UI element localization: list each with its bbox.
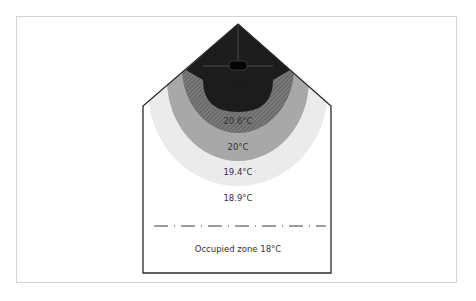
occupied-zone-label: Occupied zone 18°C bbox=[195, 244, 282, 254]
zone-18-9-label: 18.9°C bbox=[223, 193, 252, 203]
heat-stratification-diagram: 21°C 20.6°C 20°C 19.4°C 18.9°C Occupied … bbox=[0, 0, 476, 301]
zone-21-label: 21°C bbox=[227, 83, 248, 93]
zone-19-4-label: 19.4°C bbox=[223, 167, 252, 177]
zone-20-6-label: 20.6°C bbox=[223, 116, 252, 126]
heater-icon bbox=[229, 61, 247, 70]
zone-20-label: 20°C bbox=[227, 142, 248, 152]
